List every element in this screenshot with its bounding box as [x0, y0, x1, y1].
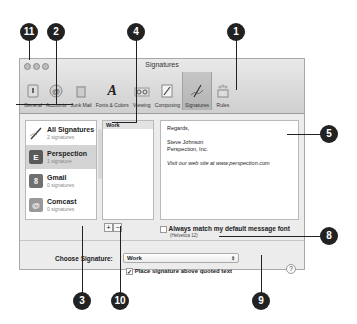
select-arrows-icon: ⇕	[231, 254, 235, 262]
editor-line: Visit our web site at www.perspection.co…	[167, 160, 292, 167]
account-count: 2 signatures	[47, 134, 94, 140]
callout-4: 4	[127, 23, 145, 41]
callout-8: 8	[320, 227, 338, 245]
account-count: 0 signatures	[47, 182, 74, 188]
callout-line	[120, 226, 121, 296]
tab-composing[interactable]: Composing	[153, 72, 182, 110]
callout-5: 5	[320, 125, 338, 143]
account-name: Perspection	[47, 150, 87, 158]
callout-line	[261, 255, 262, 295]
titlebar: Signatures General @ Accounts Junk Mail …	[20, 59, 304, 114]
editor-line: Steve Johnson	[167, 139, 292, 146]
account-name: Comcast	[47, 198, 77, 206]
callout-line	[56, 40, 57, 104]
signature-pen-icon	[188, 82, 206, 100]
callout-1: 1	[227, 23, 245, 41]
help-button[interactable]: ?	[286, 264, 296, 274]
tab-label: Junk Mail	[71, 102, 92, 110]
rules-icon	[214, 82, 232, 100]
editor-line: Regards,	[167, 125, 292, 132]
place-above-checkbox[interactable]: ✓	[126, 268, 133, 275]
callout-line	[287, 134, 324, 135]
window-title: Signatures	[20, 61, 304, 68]
font-icon: A	[103, 82, 121, 100]
account-count: 1 signature	[47, 158, 87, 164]
match-font-label: Always match my default message font	[169, 225, 290, 232]
tab-fonts-colors[interactable]: A Fonts & Colors	[94, 72, 131, 110]
account-item-gmail[interactable]: 8 Gmail0 signatures	[26, 169, 96, 193]
editor-line: Perspection, Inc.	[167, 146, 292, 153]
signatures-preferences-window: Signatures General @ Accounts Junk Mail …	[19, 58, 305, 270]
choose-signature-value: Work	[127, 255, 142, 261]
callout-line	[112, 122, 137, 123]
tab-label: Fonts & Colors	[96, 102, 129, 110]
callout-line	[29, 40, 30, 60]
tab-viewing[interactable]: Viewing	[131, 72, 153, 110]
callout-9: 9	[252, 292, 270, 310]
signature-editor[interactable]: Regards, Steve Johnson Perspection, Inc.…	[160, 120, 299, 220]
account-list[interactable]: All Signatures2 signatures E Perspection…	[25, 120, 97, 220]
pen-icon	[29, 126, 43, 140]
account-count: 0 signatures	[47, 206, 77, 212]
tab-label: Signatures	[185, 102, 209, 110]
place-above-label: Place signature above quoted text	[135, 268, 232, 274]
callout-line	[136, 40, 137, 122]
general-switch-icon	[24, 82, 42, 100]
account-item-all-signatures[interactable]: All Signatures2 signatures	[26, 121, 96, 145]
callout-line	[236, 40, 237, 90]
place-above-option[interactable]: ✓ Place signature above quoted text	[126, 268, 232, 275]
match-font-option[interactable]: Always match my default message font	[160, 225, 290, 233]
trash-mail-icon	[72, 82, 90, 100]
account-name: Gmail	[47, 174, 74, 182]
match-font-checkbox[interactable]	[160, 226, 167, 233]
choose-signature-label: Choose Signature:	[55, 255, 113, 262]
tab-label: Rules	[217, 102, 230, 110]
comcast-icon: @	[29, 198, 43, 212]
callout-line	[16, 104, 73, 105]
signature-list[interactable]: Work	[102, 120, 154, 220]
callout-line	[82, 226, 83, 296]
tab-rules[interactable]: Rules	[212, 72, 234, 110]
account-item-comcast[interactable]: @ Comcast0 signatures	[26, 193, 96, 217]
callout-3: 3	[73, 292, 91, 310]
tab-signatures[interactable]: Signatures	[182, 72, 212, 110]
preferences-toolbar: General @ Accounts Junk Mail A Fonts & C…	[20, 72, 306, 112]
pencil-paper-icon	[158, 82, 176, 100]
google-icon: 8	[29, 174, 43, 188]
callout-line	[219, 236, 324, 237]
account-item-perspection[interactable]: E Perspection1 signature	[26, 145, 96, 169]
account-name: All Signatures	[47, 126, 94, 134]
match-font-hint: (Helvetica 12)	[170, 233, 198, 238]
callout-2: 2	[47, 23, 65, 41]
exchange-icon: E	[29, 150, 43, 164]
choose-signature-select[interactable]: Work ⇕	[123, 253, 239, 263]
tab-label: Composing	[155, 102, 180, 110]
callout-11: 11	[20, 23, 38, 41]
add-signature-button[interactable]: +	[104, 223, 113, 232]
divider	[20, 240, 304, 241]
callout-10: 10	[111, 292, 129, 310]
